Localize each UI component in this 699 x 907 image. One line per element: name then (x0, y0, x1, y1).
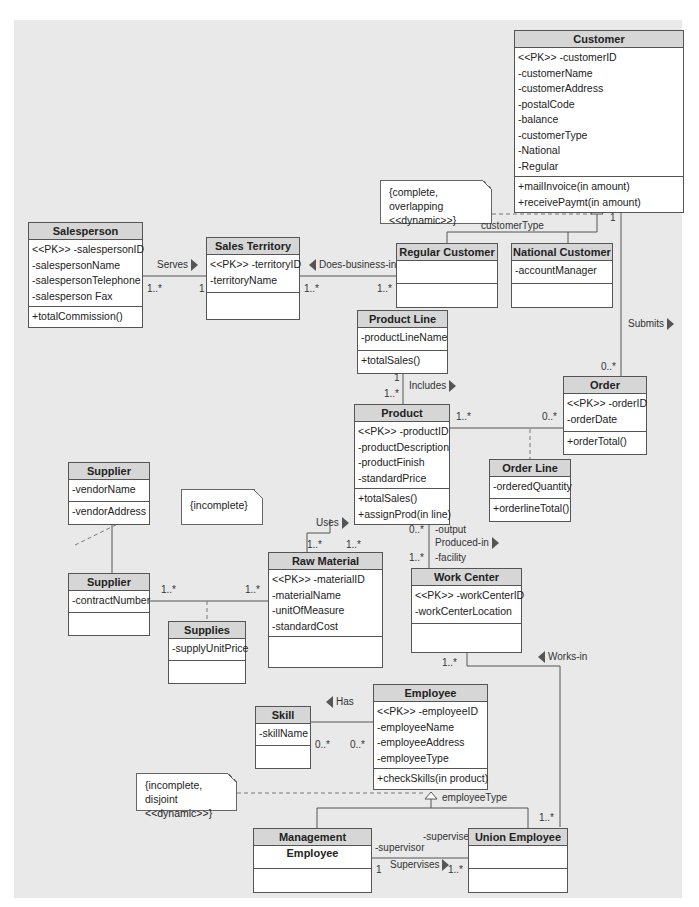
attribute: -balance (518, 112, 680, 128)
association-uses: Uses (316, 517, 349, 529)
class-national-customer[interactable]: National Customer -accountManager (511, 243, 613, 308)
role-label: -supervisee (423, 831, 475, 842)
class-name: Raw Material (269, 553, 382, 570)
association-name: Uses (316, 517, 339, 528)
operations (469, 869, 567, 892)
class-sales-territory[interactable]: Sales Territory <<PK>> -territoryID -ter… (206, 237, 300, 320)
association-works-in: Works-in (538, 651, 587, 663)
association-does-business-in: Does-business-in (309, 259, 396, 271)
class-supplies[interactable]: Supplies -supplyUnitPrice (168, 621, 246, 684)
multiplicity: 1 (199, 283, 205, 294)
direction-arrow-icon (342, 517, 349, 529)
attribute: <<PK>> -customerID (518, 50, 680, 66)
operations (269, 637, 382, 667)
operations: +totalSales() +assignProd(in line) (355, 489, 449, 524)
attribute: <<PK>> -territoryID (210, 257, 296, 273)
operations (256, 746, 310, 768)
attributes: <<PK>> -territoryID -territoryName (207, 255, 299, 293)
class-name: Supplier (69, 574, 149, 591)
attribute: <<PK>> -employeeID (377, 704, 484, 720)
attribute: <<PK>> -salespersonID (32, 242, 139, 258)
class-union-employee[interactable]: Union Employee (468, 828, 568, 893)
direction-arrow-icon (492, 537, 499, 549)
operations (69, 613, 149, 635)
attribute: <<PK>> -workCenterID (415, 588, 518, 604)
attribute: -orderDate (567, 412, 643, 428)
attributes: <<PK>> -productID -productDescription -p… (355, 422, 449, 489)
class-product-line[interactable]: Product Line -productLineName +totalSale… (357, 310, 448, 374)
direction-arrow-icon (309, 259, 316, 271)
class-employee[interactable]: Employee <<PK>> -employeeID -employeeNam… (373, 684, 488, 790)
multiplicity: 1..* (346, 539, 361, 550)
association-has: Has (326, 696, 354, 708)
class-work-center[interactable]: Work Center <<PK>> -workCenterID -workCe… (411, 568, 522, 653)
class-supplier-child[interactable]: Supplier -contractNumber (68, 573, 150, 636)
class-management-employee[interactable]: Management Employee (253, 828, 372, 893)
class-name: Management Employee (254, 829, 371, 846)
attribute: -postalCode (518, 97, 680, 113)
class-salesperson[interactable]: Salesperson <<PK>> -salespersonID -sales… (28, 222, 143, 328)
operation: -vendorAddress (72, 504, 146, 520)
operation: +mailInvoice(in amount) (518, 179, 680, 195)
operations (512, 284, 612, 307)
multiplicity: 1..* (377, 283, 392, 294)
class-name: Work Center (412, 569, 521, 586)
class-name: Employee (374, 685, 487, 702)
attribute: -productDescription (358, 440, 446, 456)
operation: +assignProd(in line) (358, 507, 446, 523)
attribute: -employeeName (377, 720, 484, 736)
association-name: Submits (628, 318, 664, 329)
class-name: Supplies (169, 622, 245, 639)
class-order[interactable]: Order <<PK>> -orderID -orderDate +orderT… (563, 376, 647, 455)
association-supervises: Supervises (390, 859, 449, 871)
class-order-line[interactable]: Order Line -orderedQuantity +orderlineTo… (489, 459, 571, 522)
class-customer[interactable]: Customer <<PK>> -customerID -customerNam… (514, 30, 684, 213)
attribute: -salespersonTelephone (32, 273, 139, 289)
multiplicity: 1..* (409, 552, 424, 563)
attribute: -accountManager (515, 263, 609, 279)
attribute: -vendorName (72, 482, 146, 498)
operations: -vendorAddress (69, 502, 149, 524)
association-name: Supervises (390, 859, 439, 870)
multiplicity: 1..* (304, 283, 319, 294)
attributes: -orderedQuantity (490, 477, 570, 499)
operation: +orderlineTotal() (493, 501, 567, 517)
operations: +orderTotal() (564, 432, 646, 454)
association-includes: Includes (409, 380, 456, 392)
attributes (397, 261, 497, 284)
class-name: Customer (515, 31, 683, 48)
attributes: <<PK>> -salespersonID -salespersonName -… (29, 240, 142, 307)
class-product[interactable]: Product <<PK>> -productID -productDescri… (354, 404, 450, 525)
operations: +totalSales() (358, 351, 447, 373)
attribute: -customerAddress (518, 81, 680, 97)
direction-arrow-icon (191, 259, 198, 271)
operation: +totalCommission() (32, 309, 139, 325)
attributes: -contractNumber (69, 591, 149, 613)
multiplicity: 1..* (448, 864, 463, 875)
attribute: -customerName (518, 66, 680, 82)
association-produced-in: Produced-in (435, 537, 499, 549)
attribute: -standardCost (272, 619, 379, 635)
multiplicity: 0..* (409, 524, 424, 535)
class-regular-customer[interactable]: Regular Customer (396, 243, 498, 308)
multiplicity: 1 (394, 372, 400, 383)
multiplicity: 1 (376, 864, 382, 875)
multiplicity: 1..* (539, 812, 554, 823)
operations (207, 293, 299, 319)
role-label: -facility (435, 552, 466, 563)
association-name: Serves (157, 259, 188, 270)
class-name: Regular Customer (397, 244, 497, 261)
multiplicity: 0..* (315, 739, 330, 750)
class-supplier-parent[interactable]: Supplier -vendorName -vendorAddress (68, 462, 150, 525)
association-name: Does-business-in (319, 259, 396, 270)
operation: +receivePaymt(in amount) (518, 195, 680, 211)
class-skill[interactable]: Skill -skillName (255, 706, 311, 769)
attributes: <<PK>> -workCenterID -workCenterLocation (412, 586, 521, 624)
class-name: National Customer (512, 244, 612, 261)
attributes (469, 846, 567, 869)
direction-arrow-icon (667, 318, 674, 330)
attribute: <<PK>> -productID (358, 424, 446, 440)
attribute: -orderedQuantity (493, 479, 567, 495)
class-raw-material[interactable]: Raw Material <<PK>> -materialID -materia… (268, 552, 383, 668)
class-name: Supplier (69, 463, 149, 480)
